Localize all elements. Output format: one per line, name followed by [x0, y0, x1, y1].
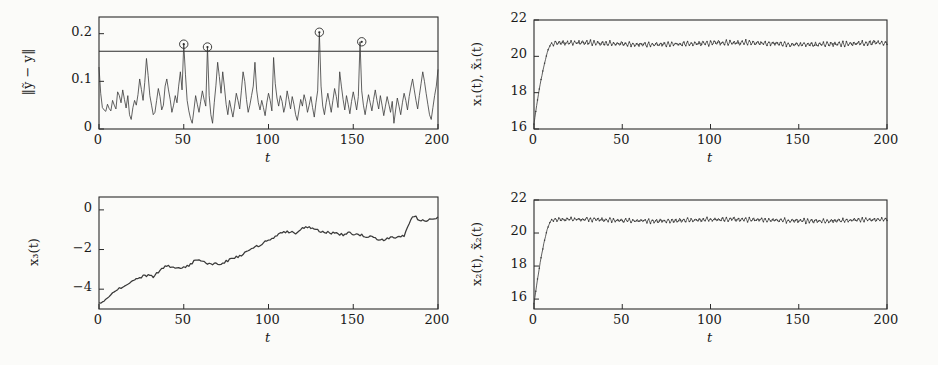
data-point-marker	[724, 44, 726, 46]
data-point-marker	[772, 42, 774, 44]
data-point-marker	[703, 218, 705, 220]
x-tick-label: 150	[773, 312, 823, 327]
data-point-marker	[794, 220, 796, 222]
data-point-marker	[556, 43, 558, 45]
data-point-marker	[678, 220, 680, 222]
data-point-marker	[833, 43, 835, 45]
data-point-marker	[742, 218, 744, 220]
data-point-marker	[704, 44, 706, 46]
data-point-marker	[704, 220, 706, 222]
data-point-marker	[682, 220, 684, 222]
data-point-marker	[780, 42, 782, 44]
plot-frame	[534, 20, 887, 129]
data-point-marker	[715, 219, 717, 221]
data-point-marker	[671, 41, 673, 43]
data-point-marker	[854, 219, 856, 221]
data-point-marker	[879, 220, 881, 222]
data-point-marker	[810, 219, 812, 221]
data-point-marker	[558, 42, 560, 44]
data-point-marker	[879, 43, 881, 45]
data-point-marker	[726, 217, 728, 219]
data-point-marker	[761, 217, 763, 219]
data-point-marker	[747, 44, 749, 46]
data-point-marker	[708, 45, 710, 47]
data-point-marker	[703, 41, 705, 43]
data-point-marker	[805, 46, 807, 48]
data-point-marker	[666, 222, 668, 224]
data-point-marker	[796, 219, 798, 221]
data-point-marker	[669, 46, 671, 48]
data-point-marker	[622, 42, 624, 44]
data-point-marker	[623, 221, 625, 223]
data-point-marker	[634, 221, 636, 223]
y-tick-label: 20	[485, 223, 527, 238]
data-point-marker	[708, 220, 710, 222]
data-point-marker	[853, 219, 855, 221]
data-point-marker	[713, 219, 715, 221]
data-point-marker	[648, 218, 650, 220]
data-point-marker	[863, 221, 865, 223]
data-point-marker	[823, 41, 825, 43]
data-point-marker	[757, 219, 759, 221]
data-point-marker	[807, 218, 809, 220]
data-point-marker	[842, 218, 844, 220]
data-point-marker	[652, 43, 654, 45]
data-point-marker	[694, 219, 696, 221]
data-point-marker	[535, 111, 537, 113]
data-point-marker	[817, 221, 819, 223]
data-series-line	[534, 217, 887, 304]
data-point-marker	[588, 220, 590, 222]
data-point-marker	[870, 44, 872, 46]
data-point-marker	[644, 219, 646, 221]
data-point-marker	[590, 217, 592, 219]
data-point-marker	[579, 43, 581, 45]
data-point-marker	[779, 44, 781, 46]
data-point-marker	[597, 41, 599, 43]
data-point-marker	[719, 219, 721, 221]
data-point-marker	[756, 220, 758, 222]
x-tick-label: 200	[412, 312, 462, 327]
data-point-marker	[607, 44, 609, 46]
data-point-marker	[886, 220, 888, 222]
y-tick-label: 0	[50, 200, 92, 215]
data-point-marker	[667, 219, 669, 221]
data-point-marker	[860, 221, 862, 223]
data-point-marker	[867, 220, 869, 222]
data-point-marker	[570, 40, 572, 42]
data-point-marker	[572, 44, 574, 46]
x-tick-label: 150	[773, 132, 823, 147]
data-point-marker	[676, 221, 678, 223]
x-tick-label: 0	[73, 312, 123, 327]
data-point-marker	[547, 49, 549, 51]
data-point-marker	[632, 219, 634, 221]
data-point-marker	[682, 45, 684, 47]
data-point-marker	[712, 44, 714, 46]
data-point-marker	[881, 217, 883, 219]
data-point-marker	[540, 257, 542, 259]
data-point-marker	[727, 221, 729, 223]
data-point-marker	[717, 42, 719, 44]
data-point-marker	[664, 220, 666, 222]
data-point-marker	[629, 218, 631, 220]
data-point-marker	[701, 43, 703, 45]
data-point-marker	[727, 44, 729, 46]
data-point-marker	[560, 43, 562, 45]
data-point-marker	[872, 42, 874, 44]
data-point-marker	[814, 220, 816, 222]
data-point-marker	[644, 42, 646, 44]
data-point-marker	[655, 220, 657, 222]
data-point-marker	[662, 44, 664, 46]
data-point-marker	[625, 42, 627, 44]
data-point-marker	[690, 42, 692, 44]
data-point-marker	[761, 42, 763, 44]
data-point-marker	[819, 43, 821, 45]
data-point-marker	[742, 40, 744, 42]
data-point-marker	[685, 45, 687, 47]
data-point-marker	[745, 217, 747, 219]
data-point-marker	[563, 42, 565, 44]
data-point-marker	[689, 44, 691, 46]
data-point-marker	[561, 218, 563, 220]
x-tick-label: 0	[73, 132, 123, 147]
data-point-marker	[653, 45, 655, 47]
data-point-marker	[738, 218, 740, 220]
